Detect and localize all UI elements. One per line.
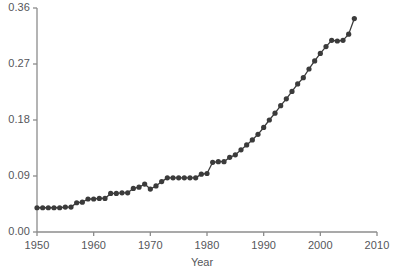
data-point [221, 159, 226, 164]
x-axis-title: Year [0, 256, 404, 268]
data-point [238, 147, 243, 152]
data-point [312, 58, 317, 63]
y-axis-tick-label: 0.27 [0, 57, 30, 69]
x-axis-tick-label: 1950 [17, 239, 57, 251]
data-point [233, 152, 238, 157]
data-point [210, 160, 215, 165]
data-point [136, 185, 141, 190]
data-point [80, 200, 85, 205]
x-axis-tick-label: 1970 [130, 239, 170, 251]
y-axis-tick-label: 0.00 [0, 225, 30, 237]
data-point [340, 38, 345, 43]
data-point [244, 142, 249, 147]
data-point [323, 44, 328, 49]
data-point [125, 190, 130, 195]
data-point [272, 111, 277, 116]
data-point [255, 132, 260, 137]
data-point [193, 175, 198, 180]
data-point [148, 186, 153, 191]
data-point [153, 183, 158, 188]
data-point [91, 196, 96, 201]
data-point [159, 179, 164, 184]
data-point [68, 205, 73, 210]
y-axis-tick-label: 0.18 [0, 113, 30, 125]
data-point [199, 172, 204, 177]
data-point [295, 81, 300, 86]
data-point [142, 181, 147, 186]
data-point [170, 175, 175, 180]
data-point [46, 205, 51, 210]
data-point [227, 155, 232, 160]
data-point [176, 175, 181, 180]
x-axis-tick-label: 2000 [300, 239, 340, 251]
data-point [165, 175, 170, 180]
data-point [114, 191, 119, 196]
x-axis-tick-label: 2010 [357, 239, 397, 251]
x-axis-tick-label: 1990 [244, 239, 284, 251]
data-point [267, 117, 272, 122]
data-point [318, 51, 323, 56]
data-point [34, 205, 39, 210]
data-point [289, 89, 294, 94]
data-point [102, 196, 107, 201]
data-point [63, 205, 68, 210]
data-point [329, 38, 334, 43]
data-point [250, 137, 255, 142]
data-point [301, 75, 306, 80]
data-point [97, 196, 102, 201]
x-axis-tick-label: 1980 [187, 239, 227, 251]
data-point [204, 171, 209, 176]
chart-series [34, 16, 357, 210]
data-point [40, 205, 45, 210]
chart-figure: 0.000.090.180.270.36 1950196019701980199… [0, 0, 404, 274]
data-point [306, 66, 311, 71]
chart-plot-area [0, 0, 404, 274]
data-point [108, 191, 113, 196]
data-point [261, 125, 266, 130]
data-point [346, 32, 351, 37]
data-point [278, 103, 283, 108]
data-point [85, 196, 90, 201]
y-axis-tick-label: 0.09 [0, 169, 30, 181]
data-point [187, 175, 192, 180]
data-point [57, 205, 62, 210]
data-point [51, 205, 56, 210]
data-point [131, 186, 136, 191]
y-axis-tick-label: 0.36 [0, 1, 30, 13]
x-axis-tick-label: 1960 [74, 239, 114, 251]
data-point [182, 175, 187, 180]
data-point [352, 16, 357, 21]
data-point [284, 96, 289, 101]
data-point [119, 190, 124, 195]
data-point [74, 200, 79, 205]
data-point [216, 159, 221, 164]
data-point [335, 38, 340, 43]
